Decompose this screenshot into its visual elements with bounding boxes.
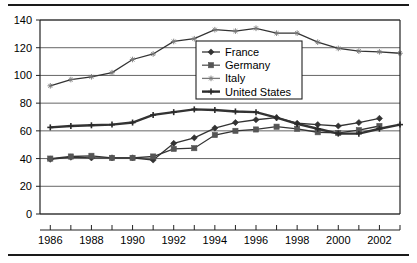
data-point-united-states-1991 [150, 112, 156, 118]
series-line-united-states [50, 109, 400, 133]
x-tick-label-1988: 1988 [79, 234, 103, 246]
data-point-italy-1992 [171, 39, 177, 45]
data-point-united-states-1990 [130, 120, 136, 126]
x-tick-label-1996: 1996 [244, 234, 268, 246]
y-tick-label-40: 40 [20, 153, 32, 165]
x-tick-label-1990: 1990 [120, 234, 144, 246]
y-tick-label-60: 60 [20, 125, 32, 137]
chart-figure: 020406080100120140 198619881990199219941… [0, 0, 417, 263]
data-point-germany-1990 [130, 155, 135, 160]
data-point-germany-1995 [233, 128, 238, 133]
data-point-france-1995 [232, 119, 238, 125]
data-point-united-states-1997 [274, 115, 280, 121]
x-tick-label-2002: 2002 [367, 234, 391, 246]
data-point-italy-1994 [212, 27, 218, 33]
x-tick-label-1994: 1994 [203, 234, 227, 246]
data-point-france-2001 [356, 119, 362, 125]
data-point-germany-1991 [151, 154, 156, 159]
data-point-united-states-1989 [109, 122, 115, 128]
data-point-italy-2001 [356, 48, 362, 54]
data-point-italy-2002 [377, 49, 383, 55]
y-tick-label-20: 20 [20, 180, 32, 192]
data-point-france-1993 [191, 135, 197, 141]
data-point-united-states-1993 [191, 106, 197, 112]
x-axis-tick-labels: 198619881990199219941996199820002002 [38, 234, 392, 246]
data-point-italy-2000 [335, 46, 341, 52]
top-horizontal-rule [8, 4, 409, 6]
data-point-united-states-1994 [212, 107, 218, 113]
data-point-united-states-1987 [68, 123, 74, 129]
data-point-italy-1996 [253, 26, 259, 32]
data-point-united-states-1995 [232, 108, 238, 114]
y-axis-tick-labels: 020406080100120140 [14, 14, 32, 220]
legend-label-italy: Italy [225, 72, 246, 84]
data-point-italy-1997 [274, 30, 280, 36]
data-point-italy-1988 [89, 74, 95, 80]
data-point-italy-1999 [315, 39, 321, 45]
chart-legend: FranceGermanyItalyUnited States [196, 41, 302, 99]
data-point-germany-1998 [295, 126, 300, 131]
chart-canvas: 020406080100120140 198619881990199219941… [0, 8, 417, 252]
data-point-italy-1998 [294, 30, 300, 36]
y-tick-label-120: 120 [14, 42, 32, 54]
y-tick-label-80: 80 [20, 97, 32, 109]
data-point-germany-1989 [109, 155, 114, 160]
data-point-italy-1987 [68, 77, 74, 83]
data-point-germany-1993 [192, 146, 197, 151]
data-point-italy-1986 [47, 83, 53, 89]
data-point-germany-1986 [48, 156, 53, 161]
data-point-france-1996 [253, 117, 259, 123]
legend-label-france: France [225, 46, 259, 58]
data-point-france-1994 [212, 125, 218, 131]
data-point-italy-1995 [233, 28, 239, 34]
x-tick-label-1998: 1998 [285, 234, 309, 246]
y-tick-label-140: 140 [14, 14, 32, 26]
x-tick-label-1986: 1986 [38, 234, 62, 246]
data-point-germany-1988 [89, 153, 94, 158]
legend-label-germany: Germany [225, 59, 271, 71]
data-point-legend-marker-1 [208, 63, 213, 68]
data-point-germany-1997 [274, 124, 279, 129]
data-point-italy-1991 [150, 51, 156, 57]
line-chart: 020406080100120140 198619881990199219941… [0, 8, 417, 252]
data-point-france-2002 [376, 115, 382, 121]
data-point-germany-1987 [68, 154, 73, 159]
data-point-united-states-1986 [47, 124, 53, 130]
data-point-united-states-1992 [171, 109, 177, 115]
data-point-germany-1994 [212, 132, 217, 137]
bottom-horizontal-rule [8, 254, 409, 256]
data-point-france-2000 [335, 123, 341, 129]
data-point-united-states-1996 [253, 109, 259, 115]
data-point-germany-1992 [171, 146, 176, 151]
data-point-germany-1996 [253, 127, 258, 132]
y-tick-label-100: 100 [14, 69, 32, 81]
x-tick-label-1992: 1992 [161, 234, 185, 246]
series-united-states [47, 106, 403, 136]
legend-label-united-states: United States [225, 86, 292, 98]
y-tick-label-0: 0 [26, 208, 32, 220]
x-tick-label-2000: 2000 [326, 234, 350, 246]
data-point-italy-1989 [109, 70, 115, 76]
data-point-united-states-1988 [88, 122, 94, 128]
